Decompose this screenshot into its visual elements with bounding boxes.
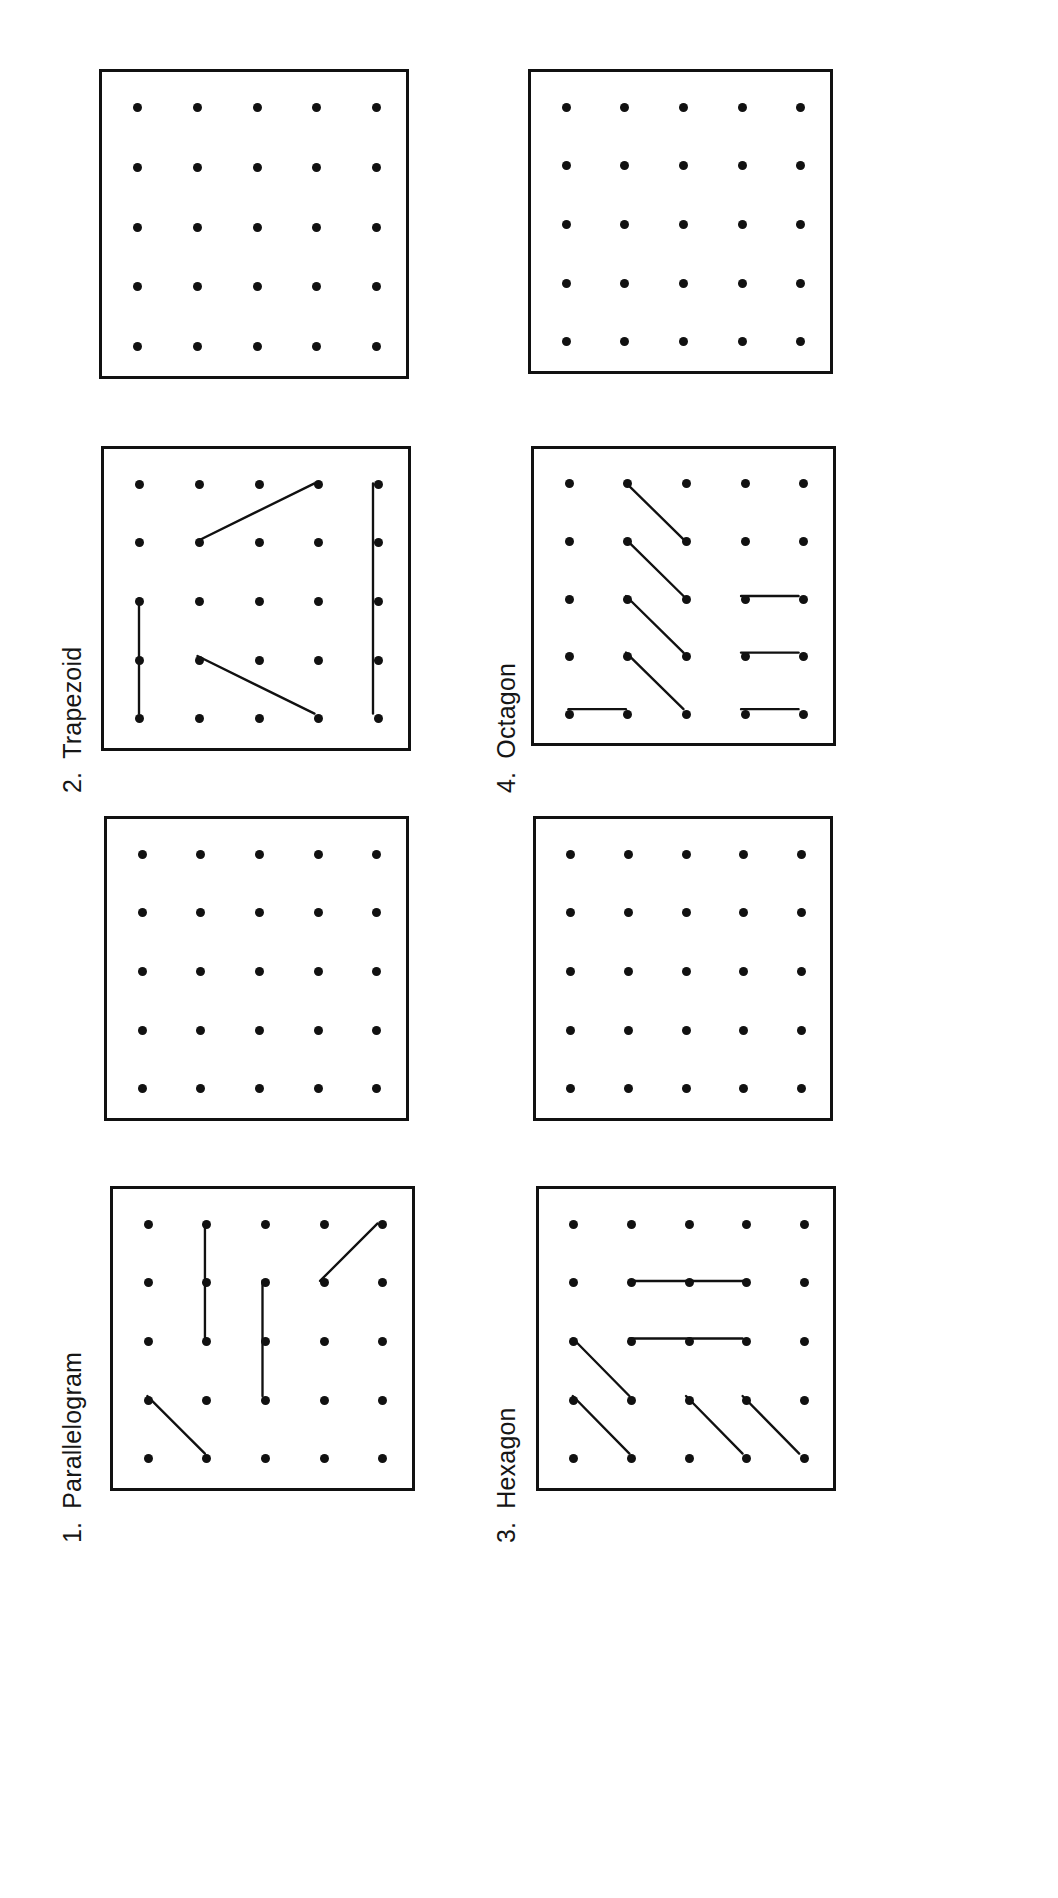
geoboard-peg[interactable] — [202, 1220, 211, 1229]
geoboard-peg[interactable] — [624, 967, 633, 976]
geoboard-peg[interactable] — [800, 1396, 809, 1405]
geoboard-peg[interactable] — [320, 1278, 329, 1287]
geoboard-peg[interactable] — [374, 714, 383, 723]
octagon-answer-board[interactable] — [531, 446, 836, 746]
geoboard-peg[interactable] — [195, 656, 204, 665]
geoboard-peg[interactable] — [796, 103, 805, 112]
geoboard-peg[interactable] — [682, 967, 691, 976]
geoboard-peg[interactable] — [378, 1396, 387, 1405]
geoboard-peg[interactable] — [627, 1454, 636, 1463]
hexagon-blank-board[interactable] — [533, 816, 833, 1121]
geoboard-peg[interactable] — [741, 652, 750, 661]
geoboard-peg[interactable] — [133, 342, 142, 351]
geoboard-peg[interactable] — [566, 908, 575, 917]
geoboard-peg[interactable] — [372, 163, 381, 172]
geoboard-peg[interactable] — [255, 908, 264, 917]
geoboard-peg[interactable] — [138, 850, 147, 859]
geoboard-peg[interactable] — [682, 908, 691, 917]
geoboard-peg[interactable] — [261, 1220, 270, 1229]
geoboard-peg[interactable] — [314, 908, 323, 917]
geoboard-peg[interactable] — [133, 163, 142, 172]
geoboard-peg[interactable] — [314, 538, 323, 547]
geoboard-peg[interactable] — [562, 279, 571, 288]
geoboard-peg[interactable] — [314, 1026, 323, 1035]
geoboard-peg[interactable] — [797, 1026, 806, 1035]
geoboard-peg[interactable] — [372, 1026, 381, 1035]
geoboard-peg[interactable] — [562, 220, 571, 229]
trapezoid-answer-board[interactable] — [101, 446, 411, 751]
geoboard-peg[interactable] — [566, 1026, 575, 1035]
geoboard-peg[interactable] — [682, 710, 691, 719]
geoboard-peg[interactable] — [195, 538, 204, 547]
geoboard-peg[interactable] — [620, 279, 629, 288]
geoboard-peg[interactable] — [320, 1337, 329, 1346]
geoboard-peg[interactable] — [682, 652, 691, 661]
geoboard-peg[interactable] — [374, 656, 383, 665]
geoboard-peg[interactable] — [739, 967, 748, 976]
geoboard-peg[interactable] — [378, 1220, 387, 1229]
geoboard-peg[interactable] — [253, 103, 262, 112]
geoboard-peg[interactable] — [378, 1454, 387, 1463]
geoboard-peg[interactable] — [138, 908, 147, 917]
geoboard-peg[interactable] — [372, 103, 381, 112]
geoboard-peg[interactable] — [800, 1337, 809, 1346]
geoboard-peg[interactable] — [144, 1278, 153, 1287]
geoboard-peg[interactable] — [742, 1337, 751, 1346]
geoboard-peg[interactable] — [685, 1278, 694, 1287]
geoboard-peg[interactable] — [682, 1084, 691, 1093]
geoboard-peg[interactable] — [196, 908, 205, 917]
geoboard-peg[interactable] — [193, 103, 202, 112]
geoboard-peg[interactable] — [623, 595, 632, 604]
geoboard-peg[interactable] — [682, 850, 691, 859]
geoboard-peg[interactable] — [565, 479, 574, 488]
geoboard-peg[interactable] — [196, 1084, 205, 1093]
geoboard-peg[interactable] — [314, 1084, 323, 1093]
geoboard-peg[interactable] — [314, 714, 323, 723]
geoboard-peg[interactable] — [144, 1454, 153, 1463]
geoboard-peg[interactable] — [623, 479, 632, 488]
geoboard-peg[interactable] — [312, 282, 321, 291]
geoboard-peg[interactable] — [738, 337, 747, 346]
geoboard-peg[interactable] — [138, 1026, 147, 1035]
geoboard-peg[interactable] — [679, 220, 688, 229]
parallelogram-blank-board[interactable] — [104, 816, 409, 1121]
geoboard-peg[interactable] — [620, 161, 629, 170]
geoboard-peg[interactable] — [739, 1026, 748, 1035]
geoboard-peg[interactable] — [196, 850, 205, 859]
geoboard-peg[interactable] — [624, 1084, 633, 1093]
geoboard-peg[interactable] — [312, 103, 321, 112]
geoboard-peg[interactable] — [312, 223, 321, 232]
geoboard-peg[interactable] — [133, 223, 142, 232]
geoboard-peg[interactable] — [314, 850, 323, 859]
geoboard-peg[interactable] — [133, 103, 142, 112]
geoboard-peg[interactable] — [372, 282, 381, 291]
geoboard-peg[interactable] — [738, 220, 747, 229]
geoboard-peg[interactable] — [679, 103, 688, 112]
geoboard-peg[interactable] — [372, 967, 381, 976]
geoboard-peg[interactable] — [135, 597, 144, 606]
geoboard-peg[interactable] — [741, 710, 750, 719]
geoboard-peg[interactable] — [135, 538, 144, 547]
geoboard-peg[interactable] — [799, 479, 808, 488]
geoboard-peg[interactable] — [135, 656, 144, 665]
geoboard-peg[interactable] — [253, 282, 262, 291]
geoboard-peg[interactable] — [255, 714, 264, 723]
geoboard-peg[interactable] — [624, 908, 633, 917]
hexagon-answer-board[interactable] — [536, 1186, 836, 1491]
geoboard-peg[interactable] — [741, 479, 750, 488]
geoboard-peg[interactable] — [565, 710, 574, 719]
geoboard-peg[interactable] — [372, 223, 381, 232]
geoboard-peg[interactable] — [742, 1220, 751, 1229]
geoboard-peg[interactable] — [202, 1337, 211, 1346]
geoboard-peg[interactable] — [255, 850, 264, 859]
geoboard-peg[interactable] — [620, 103, 629, 112]
geoboard-peg[interactable] — [566, 850, 575, 859]
geoboard-peg[interactable] — [682, 595, 691, 604]
geoboard-peg[interactable] — [314, 597, 323, 606]
geoboard-peg[interactable] — [679, 279, 688, 288]
geoboard-peg[interactable] — [261, 1454, 270, 1463]
geoboard-peg[interactable] — [255, 656, 264, 665]
geoboard-peg[interactable] — [372, 850, 381, 859]
geoboard-peg[interactable] — [685, 1337, 694, 1346]
geoboard-peg[interactable] — [739, 1084, 748, 1093]
